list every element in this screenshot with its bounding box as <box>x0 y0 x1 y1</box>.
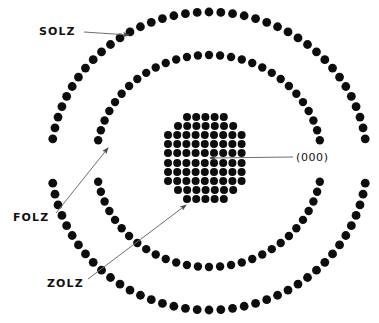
solz-spot <box>356 113 365 122</box>
zolz-spot <box>192 195 200 203</box>
solz-spot <box>106 273 115 282</box>
zolz-spot <box>192 140 200 148</box>
zolz-spot <box>228 149 236 157</box>
zolz-spot <box>210 131 218 139</box>
folz-spot <box>276 75 284 83</box>
folz-spot <box>309 116 317 124</box>
solz-spot <box>284 28 293 37</box>
solz-spot <box>262 295 271 304</box>
solz-spot <box>68 231 77 240</box>
solz-spot <box>341 231 350 240</box>
zolz-spot <box>201 195 209 203</box>
solz-spot <box>51 190 60 199</box>
solz-spot <box>312 266 321 275</box>
zolz-spot <box>164 149 172 157</box>
solz-spot <box>62 92 71 101</box>
folz-spot <box>268 69 276 77</box>
zolz-spot <box>182 140 190 148</box>
solz-spot <box>136 22 145 31</box>
solz-spot <box>359 190 368 199</box>
zolz-spot <box>192 122 200 130</box>
solz-spot <box>347 221 356 230</box>
zolz-spot <box>183 113 191 121</box>
folz-spot <box>100 116 108 124</box>
solz-spot <box>58 211 67 220</box>
zolz-spot <box>173 149 181 157</box>
zolz-spot <box>220 113 228 121</box>
zolz-spot <box>228 159 236 167</box>
folz-spot <box>292 90 300 98</box>
solz-spot <box>181 304 190 313</box>
zolz-spot <box>183 195 191 203</box>
zolz-spot <box>210 149 218 157</box>
solz-spot <box>273 22 282 31</box>
zolz-spot <box>210 168 218 176</box>
solz-spot <box>284 286 293 295</box>
solz-spot <box>216 8 225 17</box>
solz-spot <box>228 9 237 18</box>
solz-label: SOLZ <box>39 26 76 37</box>
zolz-spot <box>192 131 200 139</box>
zolz-spot <box>192 168 200 176</box>
solz-spot <box>54 113 63 122</box>
zolz-spot <box>173 131 181 139</box>
zolz-spot <box>219 131 227 139</box>
zolz-spot <box>220 186 228 194</box>
zolz-spot <box>173 159 181 167</box>
solz-spot <box>136 291 145 300</box>
solz-spot <box>328 64 337 73</box>
solz-spot <box>126 286 135 295</box>
solz-spot <box>335 73 344 82</box>
zolz-spot <box>211 122 219 130</box>
solz-spot <box>361 134 370 143</box>
solz-spot <box>74 73 83 82</box>
zolz-spot <box>173 177 181 185</box>
zolz-spot <box>202 122 210 130</box>
leader-line-solz <box>84 32 129 35</box>
folz-label: FOLZ <box>13 212 49 223</box>
folz-spot <box>238 258 246 266</box>
origin-000-label: (000) <box>296 152 329 163</box>
folz-spot <box>97 188 105 196</box>
folz-spot <box>316 177 324 185</box>
zolz-spot <box>238 177 246 185</box>
zolz-spot <box>238 159 246 167</box>
zolz-spot <box>228 177 236 185</box>
folz-spot <box>258 63 266 71</box>
solz-spot <box>181 9 190 18</box>
zolz-spot <box>229 122 237 130</box>
zolz-label: ZOLZ <box>47 278 84 289</box>
solz-spot <box>147 295 156 304</box>
folz-spot <box>316 136 324 144</box>
solz-spot <box>158 14 167 23</box>
zolz-spot <box>228 168 236 176</box>
folz-spot <box>227 53 235 61</box>
solz-spot <box>97 47 106 56</box>
zolz-spot <box>220 195 228 203</box>
solz-spot <box>97 266 106 275</box>
solz-spot <box>262 18 271 27</box>
solz-spot <box>216 305 225 314</box>
folz-spot <box>216 262 224 270</box>
folz-spot <box>172 55 180 63</box>
zolz-spot <box>173 168 181 176</box>
solz-spot <box>48 179 57 188</box>
solz-spot <box>68 82 77 91</box>
zolz-spot <box>219 168 227 176</box>
solz-spot <box>361 179 370 188</box>
zolz-spot <box>238 168 246 176</box>
solz-spot <box>312 47 321 56</box>
solz-spot <box>240 302 249 311</box>
solz-spot <box>58 102 67 111</box>
solz-spot <box>294 33 303 42</box>
zolz-spot <box>211 186 219 194</box>
zolz-spot <box>201 168 209 176</box>
folz-spot <box>100 197 108 205</box>
zolz-spot <box>182 131 190 139</box>
solz-spot <box>251 299 260 308</box>
zolz-spot <box>229 186 237 194</box>
zolz-spot <box>183 122 191 130</box>
zolz-spot <box>211 113 219 121</box>
zolz-spot <box>210 140 218 148</box>
solz-spot <box>74 241 83 250</box>
